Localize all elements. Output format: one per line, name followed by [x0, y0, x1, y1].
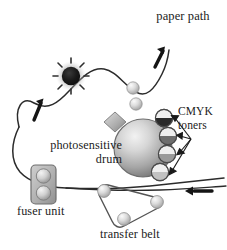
transfer-belt [98, 185, 164, 228]
loose-toner-spheres [127, 82, 142, 110]
toner-cartridge-1 [155, 109, 172, 126]
arrow-paper-up-left [34, 99, 44, 121]
toner-sphere [130, 98, 142, 110]
toner-cartridge-4 [151, 163, 168, 180]
arrow-paper-up-right [155, 47, 165, 68]
fuser-unit [31, 165, 56, 204]
label-cmyk-toners: CMYK toners [178, 104, 227, 132]
transfer-roller-1 [98, 185, 111, 198]
printer-path-diagram: paper path CMYK toners photosensitive dr… [0, 0, 227, 250]
toner-cartridge-3 [158, 145, 175, 162]
toner-blob [53, 58, 89, 94]
paper-path-upper-line [17, 50, 169, 127]
toner-cartridge-2 [159, 127, 176, 144]
label-fuser-unit: fuser unit [17, 205, 64, 218]
paper-path-curve [17, 50, 169, 127]
label-paper-path: paper path [152, 10, 214, 24]
fuser-roller-top [36, 169, 50, 183]
fuser-roller-bottom [36, 186, 50, 200]
label-transfer-belt: transfer belt [100, 228, 160, 241]
transfer-roller-3 [118, 213, 131, 226]
toner-sphere [127, 82, 139, 94]
transfer-roller-2 [151, 196, 164, 209]
label-photosensitive-drum: photosensitive drum [24, 139, 122, 166]
